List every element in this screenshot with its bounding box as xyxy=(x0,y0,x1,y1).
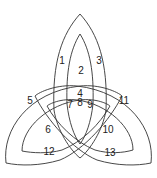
region-label-9: 9 xyxy=(87,99,93,110)
region-label-5: 5 xyxy=(27,95,33,106)
venn-diagram: 1 2 3 4 5 6 7 8 9 10 11 12 13 xyxy=(0,0,157,178)
region-label-2: 2 xyxy=(78,65,84,76)
region-label-3: 3 xyxy=(96,55,102,66)
region-label-8: 8 xyxy=(77,97,83,108)
left-lobe-inner xyxy=(22,100,110,153)
region-label-7: 7 xyxy=(67,99,73,110)
region-label-10: 10 xyxy=(102,124,114,135)
region-label-11: 11 xyxy=(119,95,130,106)
region-label-12: 12 xyxy=(43,146,55,157)
region-label-1: 1 xyxy=(59,55,65,66)
region-label-13: 13 xyxy=(104,147,116,158)
region-label-6: 6 xyxy=(45,124,51,135)
